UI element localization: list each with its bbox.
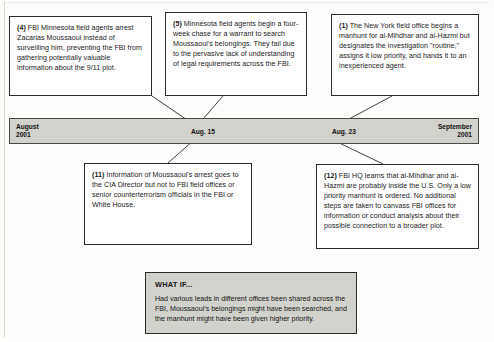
- timeline-end-label: September 2001: [438, 123, 472, 139]
- timeline-diagram: (4) FBI Minnesota field agents arrest Za…: [0, 0, 494, 342]
- callout-11-number: (11): [92, 171, 104, 179]
- callout-12-number: (12): [324, 172, 337, 180]
- timeline-start-label: August 2001: [16, 123, 39, 139]
- callout-box-11: (11) Information of Moussaoui's arrest g…: [84, 163, 252, 245]
- callout-box-12: (12) FBI HQ learns that al-Mihdhar and a…: [316, 164, 479, 249]
- timeline-marker-aug-15: Aug. 15: [191, 128, 215, 136]
- callout-5-text: Minnesota field agents begin a four-week…: [173, 20, 298, 68]
- callout-box-4: (4) FBI Minnesota field agents arrest Za…: [9, 16, 152, 96]
- what-if-body: Had various leads in different offices b…: [155, 294, 347, 325]
- callout-4-number: (4): [17, 24, 26, 32]
- callout-11-text: Information of Moussaoui's arrest goes t…: [92, 171, 238, 209]
- callout-1-text: The New York field office begins a manhu…: [339, 22, 470, 70]
- what-if-box: WHAT IF... Had various leads in differen…: [145, 272, 357, 334]
- callout-5-number: (5): [173, 20, 182, 28]
- callout-box-5: (5) Minnesota field agents begin a four-…: [165, 12, 307, 96]
- timeline-marker-aug-23: Aug. 23: [332, 128, 356, 136]
- callout-box-1: (1) The New York field office begins a m…: [331, 14, 479, 96]
- what-if-title: WHAT IF...: [155, 280, 347, 291]
- timeline-bar: August 2001 Aug. 15 Aug. 23 September 20…: [9, 118, 479, 144]
- callout-12-text: FBI HQ learns that al-Mihdhar and al-Haz…: [324, 172, 471, 230]
- callout-4-text: FBI Minnesota field agents arrest Zacari…: [17, 24, 142, 72]
- callout-1-number: (1): [339, 22, 348, 30]
